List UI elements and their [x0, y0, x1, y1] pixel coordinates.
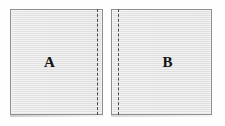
panel-a: A	[10, 9, 103, 115]
panel-b-drop-shadow	[111, 115, 213, 117]
panel-a-label: A	[11, 55, 88, 70]
figure-root: A B	[0, 0, 225, 126]
dashed-vertical-line-icon-a	[97, 9, 98, 115]
panel-a-drop-shadow	[10, 115, 104, 117]
panel-b: B	[111, 9, 212, 115]
dashed-vertical-line-icon-b	[118, 9, 119, 115]
panel-b-label: B	[124, 55, 211, 70]
